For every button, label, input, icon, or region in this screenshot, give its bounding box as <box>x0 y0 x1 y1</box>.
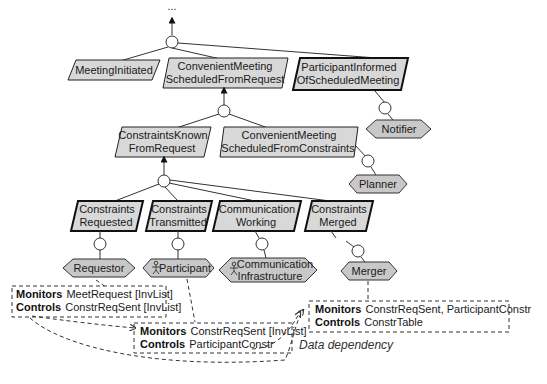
svg-text:Communication: Communication <box>237 258 313 270</box>
svg-text:Constraints: Constraints <box>79 203 135 215</box>
svg-text:ControlsParticipantConstr: ControlsParticipantConstr <box>140 338 274 350</box>
refinement-node-3 <box>158 175 170 187</box>
svg-text:Transmitted: Transmitted <box>149 216 207 228</box>
svg-text:FromRequest: FromRequest <box>129 142 196 154</box>
svg-text:ControlsConstrReqSent [InvList: ControlsConstrReqSent [InvList] <box>16 301 181 313</box>
agent-planner[interactable]: Planner <box>349 175 407 193</box>
agent-communication-infrastructure[interactable]: Communication Infrastructure <box>219 258 317 282</box>
top-ellipsis: ... <box>167 0 176 12</box>
svg-text:Merger: Merger <box>352 265 387 277</box>
svg-text:MonitorsMeetRequest [InvList]: MonitorsMeetRequest [InvList] <box>16 288 173 300</box>
interface-box-requestor: MonitorsMeetRequest [InvList] ControlsCo… <box>12 286 181 317</box>
svg-text:Requested: Requested <box>79 216 132 228</box>
goal-communication-working[interactable]: Communication Working <box>213 201 301 231</box>
svg-text:Participant: Participant <box>159 262 211 274</box>
svg-text:MonitorsConstrReqSent, Partici: MonitorsConstrReqSent, ParticipantConstr <box>315 303 531 315</box>
svg-text:MeetingInitiated: MeetingInitiated <box>75 64 153 76</box>
svg-text:ControlsConstrTable: ControlsConstrTable <box>315 316 423 328</box>
svg-text:Communication: Communication <box>219 203 295 215</box>
svg-text:Planner: Planner <box>359 178 397 190</box>
goal-agent-diagram: ... MeetingInitiated ConvenientMeeting S… <box>0 0 547 384</box>
svg-text:ParticipantInformed: ParticipantInformed <box>301 61 396 73</box>
svg-text:Merged: Merged <box>319 216 356 228</box>
svg-text:Constraints: Constraints <box>151 203 207 215</box>
goal-constraints-requested[interactable]: Constraints Requested <box>71 201 143 231</box>
interface-box-merger: MonitorsConstrReqSent, ParticipantConstr… <box>309 301 531 332</box>
svg-text:Working: Working <box>236 216 276 228</box>
svg-text:MonitorsConstrReqSent [InvList: MonitorsConstrReqSent [InvList] <box>140 325 307 337</box>
assignment-node-requestor <box>94 238 106 250</box>
svg-text:Notifier: Notifier <box>382 123 417 135</box>
svg-text:ConvenientMeeting: ConvenientMeeting <box>178 60 273 72</box>
refinement-node-2 <box>218 105 230 117</box>
goal-meeting-initiated[interactable]: MeetingInitiated <box>68 60 160 80</box>
goal-convenient-meeting-from-request[interactable]: ConvenientMeeting ScheduledFromRequest <box>163 58 288 88</box>
svg-text:Infrastructure: Infrastructure <box>238 270 303 282</box>
agent-notifier[interactable]: Notifier <box>366 120 431 138</box>
agent-participant[interactable]: Participant <box>143 259 214 277</box>
assignment-node-participant <box>172 238 184 250</box>
svg-text:ConvenientMeeting: ConvenientMeeting <box>242 129 337 141</box>
assignment-node-planner <box>362 155 374 167</box>
svg-text:ScheduledFromRequest: ScheduledFromRequest <box>166 73 285 85</box>
svg-text:ScheduledFromConstraints: ScheduledFromConstraints <box>221 142 355 154</box>
goal-participant-informed[interactable]: ParticipantInformed OfScheduledMeeting <box>293 58 408 90</box>
assignment-node-comm-infra <box>256 238 268 250</box>
refinement-node-top <box>166 36 178 48</box>
data-dependency-label: Data dependency <box>299 338 394 352</box>
goal-constraints-transmitted[interactable]: Constraints Transmitted <box>146 201 212 231</box>
svg-text:Requestor: Requestor <box>74 262 125 274</box>
svg-text:OfScheduledMeeting: OfScheduledMeeting <box>297 74 400 86</box>
agent-merger[interactable]: Merger <box>341 262 397 280</box>
assignment-node-notifier <box>379 102 391 114</box>
agent-requestor[interactable]: Requestor <box>63 259 135 277</box>
goal-convenient-meeting-from-constraints[interactable]: ConvenientMeeting ScheduledFromConstrain… <box>220 127 358 157</box>
goal-constraints-merged[interactable]: Constraints Merged <box>305 201 373 231</box>
svg-text:ConstraintsKnown: ConstraintsKnown <box>118 129 207 141</box>
svg-text:Constraints: Constraints <box>311 203 367 215</box>
goal-constraints-known[interactable]: ConstraintsKnown FromRequest <box>115 127 211 157</box>
